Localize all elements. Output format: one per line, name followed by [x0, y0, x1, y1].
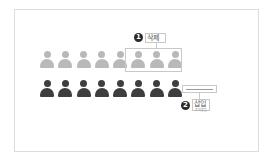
person-icon — [56, 80, 74, 100]
annotation-label-insert-subtext: 추가 삽입 — [194, 109, 208, 112]
person-icon — [56, 51, 74, 71]
person-icon — [75, 51, 93, 71]
annotation-badge-1: 1 — [134, 33, 143, 42]
insertion-slot-box — [182, 85, 217, 93]
annotation-badge-2: 2 — [181, 101, 190, 110]
person-icon — [93, 51, 111, 71]
deletion-selection-box — [125, 48, 182, 72]
person-icon — [75, 80, 93, 100]
person-icon — [93, 80, 111, 100]
person-icon — [38, 51, 56, 71]
insertion-slot-line — [186, 89, 213, 90]
person-icon — [38, 80, 56, 100]
annotation-label-insert-text: 삽입 — [194, 100, 206, 108]
person-icon — [111, 80, 129, 100]
bottom-person-row — [38, 80, 184, 100]
annotation-label-delete: 삭제 — [145, 33, 166, 43]
person-icon — [148, 80, 166, 100]
annotation-label-insert: 삽입 추가 삽입 — [192, 99, 210, 111]
person-icon — [129, 80, 147, 100]
